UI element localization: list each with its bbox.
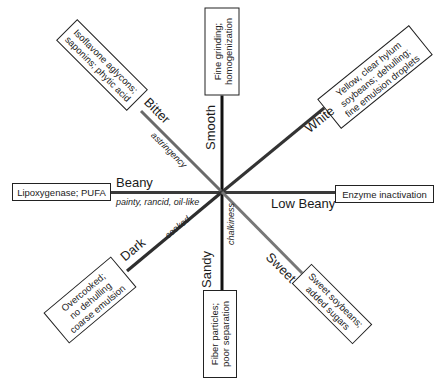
low-beany-cause-line-1: Enzyme inactivation xyxy=(342,189,426,200)
smooth-pole-label: Smooth xyxy=(203,98,218,158)
smooth-cause-line-1: Fine grinding; xyxy=(211,18,222,85)
sandy-pole-label: Sandy xyxy=(199,245,214,295)
smooth-cause-box: Fine grinding; homogenization xyxy=(205,8,240,96)
beany-cause-line-1: Lipoxygenase; PUFA xyxy=(17,187,106,198)
low-beany-cause-box: Enzyme inactivation xyxy=(335,185,434,203)
beany-descriptor: painty, rancid, oil-like xyxy=(116,197,199,207)
sandy-cause-box: Fiber particles; poor separation xyxy=(203,290,237,378)
sandy-descriptor: chalkiness xyxy=(226,199,236,249)
beany-pole-label: Beany xyxy=(116,175,153,190)
sandy-cause-line-1: Fiber particles; xyxy=(209,301,220,367)
sandy-cause-line-2: poor separation xyxy=(220,301,231,367)
beany-cause-box: Lipoxygenase; PUFA xyxy=(12,183,111,201)
low-beany-pole-label: Low Beany xyxy=(271,196,335,211)
smooth-cause-line-2: homogenization xyxy=(222,18,233,85)
